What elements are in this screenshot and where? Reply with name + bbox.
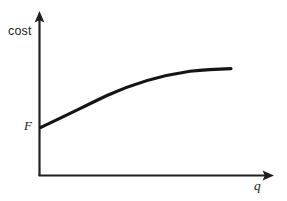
- x-axis-label: q: [254, 179, 261, 193]
- cost-curve-svg: [0, 0, 287, 201]
- cost-curve-figure: cost F q: [0, 0, 287, 201]
- figure-background: [0, 0, 287, 201]
- fixed-cost-intercept-label: F: [24, 119, 32, 132]
- y-axis-label: cost: [8, 25, 32, 38]
